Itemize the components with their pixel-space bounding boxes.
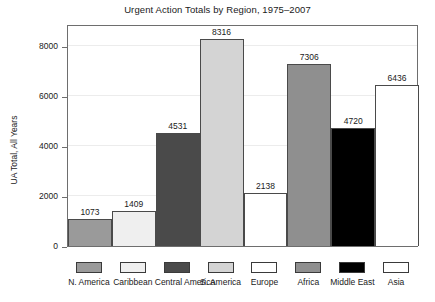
legend-label: Caribbean <box>111 277 155 287</box>
legend-swatch <box>339 262 365 273</box>
bar-asia <box>375 85 419 246</box>
legend-label: Middle East <box>330 277 374 287</box>
bar-n-america <box>68 219 112 246</box>
bar-central-america <box>156 133 200 246</box>
legend-item-caribbean[interactable]: Caribbean <box>111 262 155 287</box>
legend-item-europe[interactable]: Europe <box>243 262 287 287</box>
y-tick-mark <box>62 247 67 248</box>
plot-area: 10731409453183162138730647206436 <box>67 25 418 247</box>
legend-label: S. America <box>199 277 243 287</box>
chart-title: Urgent Action Totals by Region, 1975–200… <box>0 4 435 15</box>
bar-value-label: 7306 <box>300 52 319 62</box>
legend-swatch <box>164 262 190 273</box>
legend-swatch <box>120 262 146 273</box>
y-tick-label: 4000 <box>0 141 58 151</box>
bar-value-label: 1409 <box>124 199 143 209</box>
bar-value-label: 8316 <box>212 27 231 37</box>
legend-label: Central America <box>155 277 199 287</box>
bar-s-america <box>200 39 244 246</box>
bar-series: 10731409453183162138730647206436 <box>68 26 417 246</box>
bar-value-label: 4720 <box>344 116 363 126</box>
legend-item-s-america[interactable]: S. America <box>199 262 243 287</box>
bar-value-label: 4531 <box>168 121 187 131</box>
legend-swatch <box>208 262 234 273</box>
legend-label: Africa <box>286 277 330 287</box>
bar-africa <box>287 64 331 246</box>
y-tick-label: 6000 <box>0 91 58 101</box>
y-tick-label: 2000 <box>0 191 58 201</box>
legend-swatch <box>295 262 321 273</box>
legend-item-asia[interactable]: Asia <box>374 262 418 287</box>
legend-label: Europe <box>243 277 287 287</box>
bar-value-label: 1073 <box>80 207 99 217</box>
bar-middle-east <box>331 128 375 246</box>
legend-item-africa[interactable]: Africa <box>286 262 330 287</box>
chart-legend: N. AmericaCaribbeanCentral AmericaS. Ame… <box>67 262 418 300</box>
legend-swatch <box>383 262 409 273</box>
legend-label: Asia <box>374 277 418 287</box>
legend-swatch <box>76 262 102 273</box>
bar-value-label: 2138 <box>256 181 275 191</box>
bar-europe <box>244 193 288 246</box>
chart-figure: Urgent Action Totals by Region, 1975–200… <box>0 0 435 302</box>
legend-swatch <box>251 262 277 273</box>
bar-value-label: 6436 <box>388 73 407 83</box>
y-tick-label: 0 <box>0 241 58 251</box>
y-tick-label: 8000 <box>0 41 58 51</box>
legend-item-central-america[interactable]: Central America <box>155 262 199 287</box>
legend-label: N. America <box>67 277 111 287</box>
legend-item-middle-east[interactable]: Middle East <box>330 262 374 287</box>
bar-caribbean <box>112 211 156 246</box>
legend-item-n-america[interactable]: N. America <box>67 262 111 287</box>
